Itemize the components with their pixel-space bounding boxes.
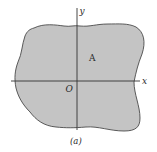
origin-label: O (66, 84, 74, 94)
y-axis-label: y (79, 6, 86, 16)
diagram-canvas: y x A O (a) (0, 0, 157, 152)
figure-caption: (a) (70, 136, 82, 146)
region-label: A (88, 53, 96, 63)
x-axis-label: x (142, 76, 147, 86)
area-diagram: y x A O (a) (0, 0, 157, 152)
region-a-shape (15, 24, 144, 131)
